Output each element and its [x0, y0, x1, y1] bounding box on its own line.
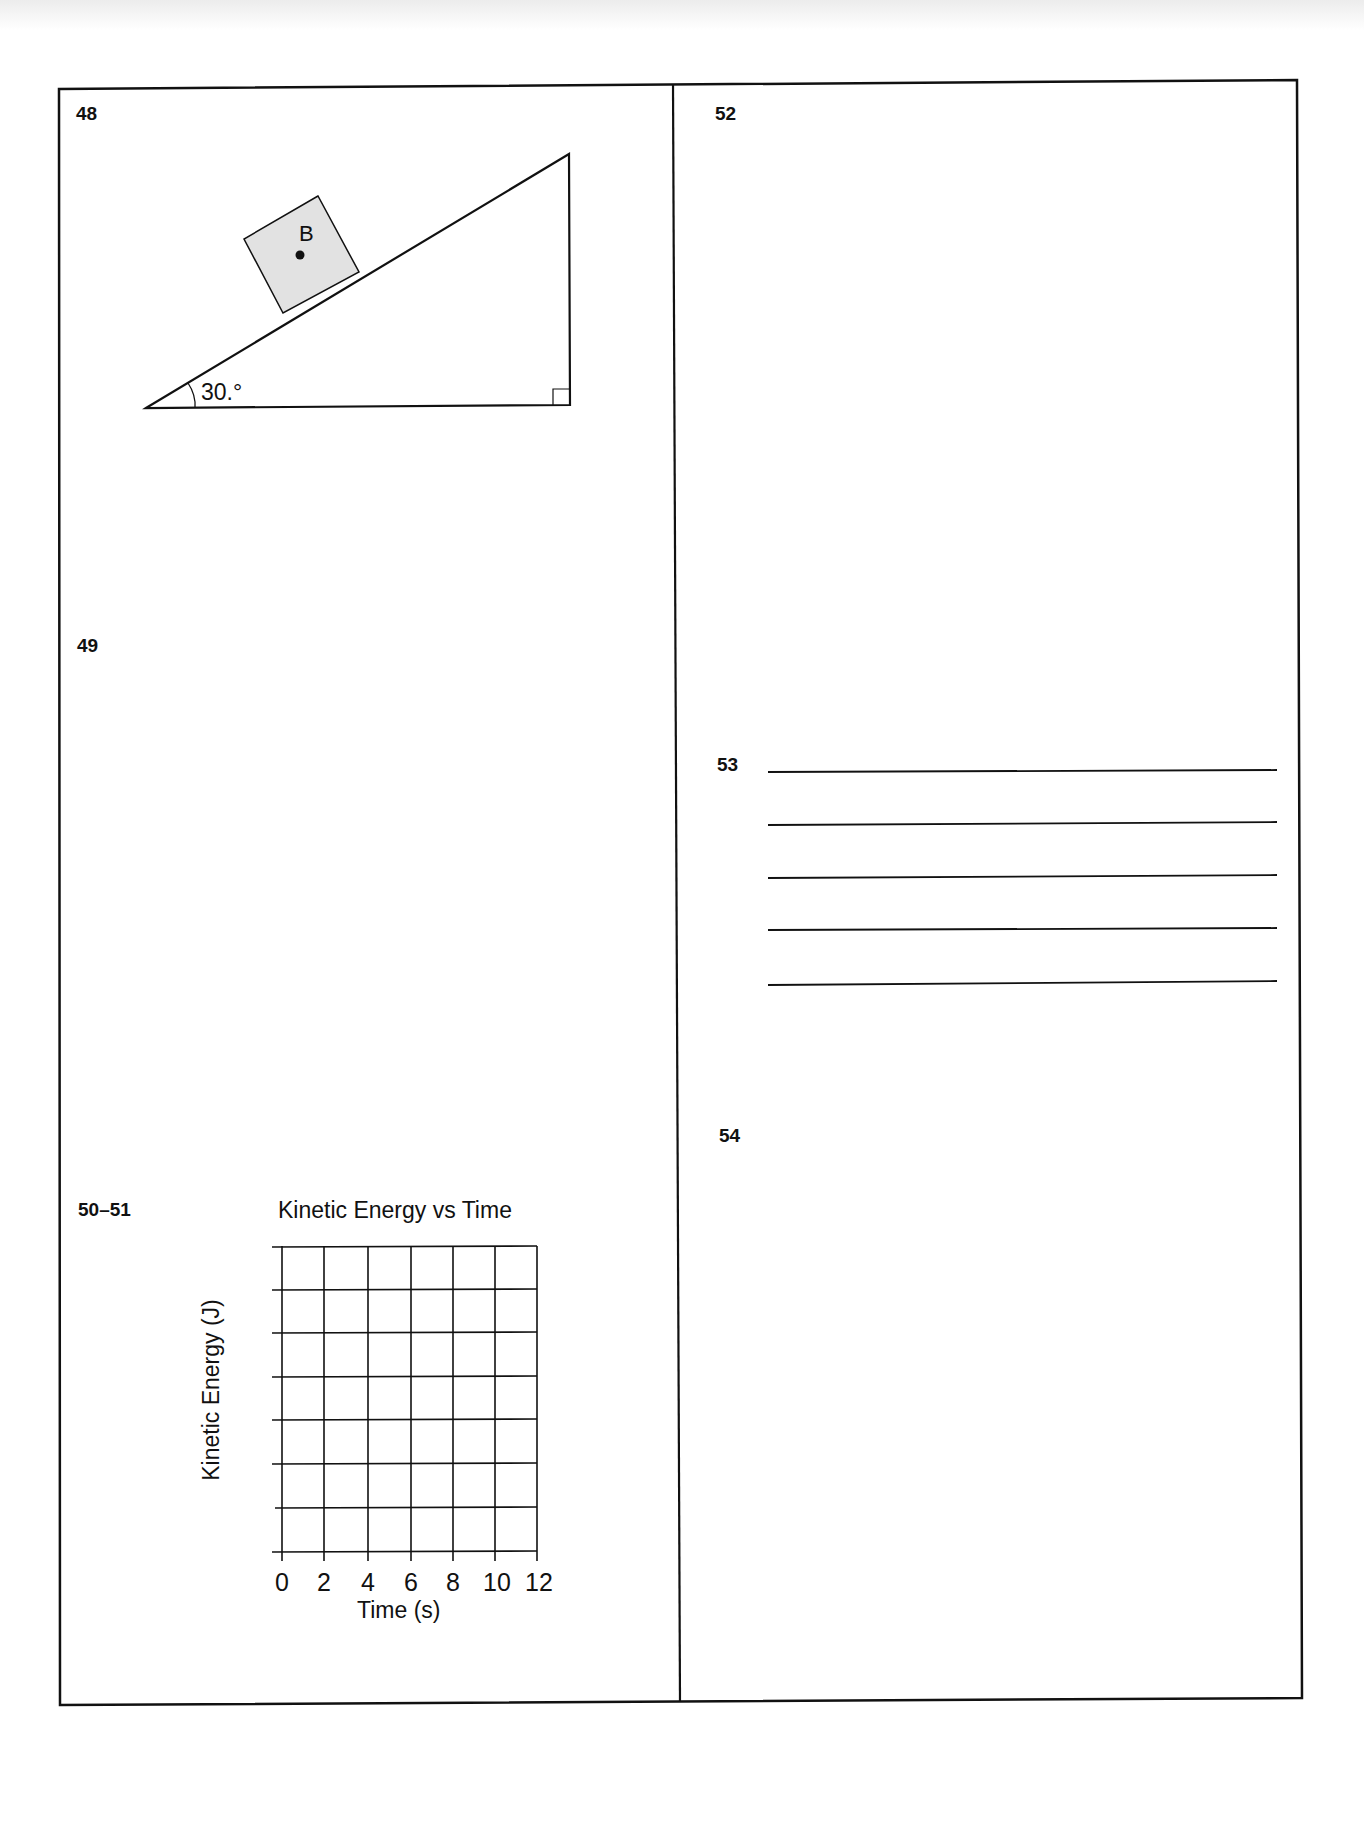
- chart-y-axis-label: Kinetic Energy (J): [199, 1299, 223, 1481]
- x-tick-label: 4: [348, 1569, 388, 1595]
- incline-diagram: [146, 154, 570, 408]
- x-tick-label: 0: [262, 1569, 302, 1595]
- x-tick-label: 10: [477, 1569, 517, 1595]
- incline-angle-label: 30.°: [201, 380, 242, 404]
- question-number-54: 54: [719, 1126, 740, 1145]
- outer-frame: [59, 80, 1302, 1705]
- question-number-49: 49: [77, 636, 98, 655]
- question-number-48: 48: [76, 104, 97, 123]
- q53-answer-lines: [768, 770, 1277, 985]
- x-tick-label: 8: [433, 1569, 473, 1595]
- x-tick-label: 12: [519, 1569, 559, 1595]
- question-number-52: 52: [715, 104, 736, 123]
- answer-sheet-frame: [0, 0, 1364, 1848]
- x-tick-label: 6: [391, 1569, 431, 1595]
- incline-triangle: [146, 154, 570, 408]
- column-divider: [673, 84, 680, 1702]
- chart-title: Kinetic Energy vs Time: [278, 1198, 512, 1222]
- ke-chart-grid: [272, 1246, 537, 1561]
- question-number-50-51: 50–51: [78, 1200, 131, 1219]
- angle-arc: [188, 383, 195, 408]
- right-angle-marker: [553, 389, 570, 405]
- block-label: B: [299, 223, 314, 245]
- center-of-mass-dot: [296, 251, 305, 260]
- question-number-53: 53: [717, 755, 738, 774]
- chart-x-axis-label: Time (s): [357, 1598, 440, 1622]
- x-tick-label: 2: [304, 1569, 344, 1595]
